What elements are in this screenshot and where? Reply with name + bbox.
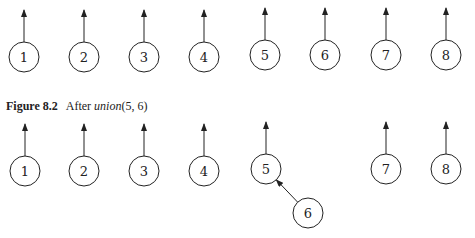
node-label: 1 <box>21 164 29 179</box>
node-label: 3 <box>140 164 148 179</box>
node-label: 8 <box>442 48 450 63</box>
caption-function: union <box>94 99 121 113</box>
caption-prefix: After <box>66 99 94 113</box>
node-label: 7 <box>382 48 390 63</box>
node-label: 2 <box>80 164 88 179</box>
node-7: 7 <box>371 122 401 184</box>
node-4: 4 <box>189 10 219 72</box>
node-5: 5 <box>250 8 280 70</box>
union-find-diagram: 12345678 12345678 <box>0 0 475 238</box>
initial-forest-row: 12345678 <box>9 8 461 72</box>
node-label: 7 <box>382 162 390 177</box>
node-5: 5 <box>251 122 281 184</box>
caption-args: (5, 6) <box>121 99 147 113</box>
node-label: 6 <box>321 48 329 63</box>
node-label: 5 <box>262 162 270 177</box>
node-3: 3 <box>129 10 159 72</box>
node-2: 2 <box>69 124 99 186</box>
node-7: 7 <box>371 8 401 70</box>
node-label: 4 <box>200 50 208 65</box>
node-label: 8 <box>442 162 450 177</box>
figure-caption: Figure 8.2After union(5, 6) <box>6 99 147 114</box>
node-8: 8 <box>431 122 461 184</box>
node-label: 6 <box>304 206 312 221</box>
node-label: 3 <box>140 50 148 65</box>
node-6: 6 <box>310 8 340 70</box>
node-3: 3 <box>129 124 159 186</box>
node-8: 8 <box>431 8 461 70</box>
node-1: 1 <box>9 10 39 72</box>
after-union-row: 12345678 <box>10 122 461 228</box>
node-label: 1 <box>20 50 28 65</box>
node-label: 2 <box>80 50 88 65</box>
node-label: 5 <box>261 48 269 63</box>
node-6: 6 <box>276 180 323 228</box>
node-4: 4 <box>189 124 219 186</box>
figure-label: Figure 8.2 <box>6 99 58 113</box>
node-1: 1 <box>10 124 40 186</box>
node-label: 4 <box>200 164 208 179</box>
parent-pointer-arrow-icon <box>276 180 297 202</box>
node-2: 2 <box>69 10 99 72</box>
